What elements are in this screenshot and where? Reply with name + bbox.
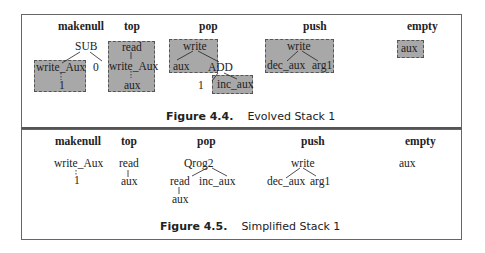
tree-node: Qrog2 bbox=[184, 157, 213, 169]
tree-node: 1 bbox=[59, 79, 65, 91]
tree-node: 0 bbox=[93, 61, 99, 73]
tree-node: write_Aux bbox=[36, 61, 85, 73]
tree-node: write bbox=[287, 40, 311, 52]
tree-node: write_Aux bbox=[109, 60, 158, 72]
figure-number: Figure 4.4. bbox=[166, 110, 233, 123]
tree-node: read bbox=[122, 41, 142, 53]
tree-node: aux bbox=[172, 193, 189, 205]
tree-node: dec_aux bbox=[267, 175, 305, 187]
figure-title: Simplified Stack 1 bbox=[241, 220, 340, 233]
figure-caption: Figure 4.4.Evolved Stack 1 bbox=[166, 110, 335, 123]
tree-node: aux bbox=[124, 79, 141, 91]
figure-title: Evolved Stack 1 bbox=[247, 110, 335, 123]
tree-node: aux bbox=[121, 175, 138, 187]
tree-node: write bbox=[183, 40, 207, 52]
tree-node: SUB bbox=[75, 40, 97, 52]
figure-caption: Figure 4.5.Simplified Stack 1 bbox=[160, 220, 340, 233]
tree-node: write_Aux bbox=[54, 157, 103, 169]
figure-number: Figure 4.5. bbox=[160, 220, 227, 233]
tree-node: arg1 bbox=[310, 175, 330, 187]
figure-4-5-frame: makenull top pop push empty write_Aux 1 … bbox=[21, 129, 462, 240]
tree-node: write bbox=[291, 157, 315, 169]
tree-node: inc_aux bbox=[217, 78, 253, 90]
tree-node: 1 bbox=[198, 79, 204, 91]
tree-node: aux bbox=[401, 42, 418, 54]
tree-node: 1 bbox=[74, 174, 80, 186]
tree-node: arg1 bbox=[312, 59, 332, 71]
tree-node: aux bbox=[173, 60, 190, 72]
tree-node: read bbox=[170, 175, 190, 187]
tree-node: read bbox=[119, 157, 139, 169]
tree-node: inc_aux bbox=[199, 175, 235, 187]
tree-node: ADD bbox=[208, 61, 233, 73]
tree-node: aux bbox=[399, 157, 416, 169]
figure-4-4-frame: makenull top pop push empty SUB write_Au… bbox=[21, 14, 462, 129]
tree-node: dec_aux bbox=[267, 59, 305, 71]
